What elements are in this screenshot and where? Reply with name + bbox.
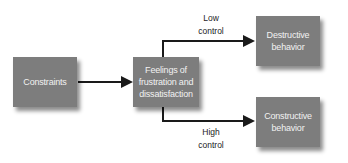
node-destructive-behavior: Destructive behavior [256,16,320,66]
node-constructive-line2: behavior [264,122,312,134]
arrow-feelings-to-constructive [163,107,253,121]
edge-label-low-control: Low control [193,12,229,38]
node-constraints-label: Constraints [23,76,66,88]
edge-label-high-line2: control [193,139,229,152]
node-feelings-line1: Feelings of [139,64,194,76]
edge-label-low-line2: control [193,25,229,38]
node-constraints: Constraints [13,57,77,107]
node-destructive-line2: behavior [267,41,310,53]
edge-label-high-line1: High [193,126,229,139]
node-feelings-line3: dissatisfaction [139,88,194,100]
edge-label-high-control: High control [193,126,229,152]
node-feelings-line2: frustration and [139,76,194,88]
node-constructive-behavior: Constructive behavior [256,97,320,147]
node-destructive-line1: Destructive [267,29,310,41]
node-constructive-line1: Constructive [264,110,312,122]
edge-label-low-line1: Low [193,12,229,25]
node-feelings: Feelings of frustration and dissatisfact… [133,57,199,107]
arrow-feelings-to-destructive [163,41,253,57]
